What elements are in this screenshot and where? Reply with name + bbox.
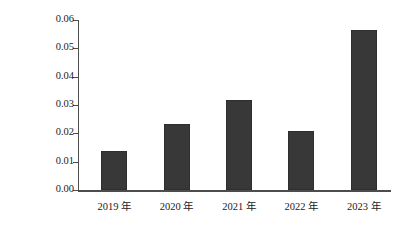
y-tick-label: 0.00 <box>56 183 74 194</box>
y-tick-label: 0.03 <box>56 98 74 109</box>
x-tick-label: 2023 年 <box>347 198 381 213</box>
y-axis-line <box>78 20 79 191</box>
x-tick-label: 2021 年 <box>222 198 256 213</box>
chart-figure: 总磷含量（mg/L） 0.000.010.020.030.040.050.06 … <box>0 0 415 228</box>
bar <box>101 151 127 190</box>
x-tick-label: 2019 年 <box>97 198 131 213</box>
y-tick-label: 0.04 <box>56 70 74 81</box>
bar <box>164 124 190 190</box>
y-tick-label: 0.05 <box>56 41 74 52</box>
x-tick-label: 2020 年 <box>160 198 194 213</box>
y-tick-label: 0.01 <box>56 155 74 166</box>
y-tick-label: 0.02 <box>56 126 74 137</box>
x-axis-line <box>78 190 391 192</box>
plot-area: 0.000.010.020.030.040.050.06 2019 年2020 … <box>78 20 390 191</box>
x-tick-label: 2022 年 <box>285 198 319 213</box>
bar <box>288 131 314 190</box>
bar <box>226 100 252 190</box>
bar <box>351 30 377 190</box>
y-tick-label: 0.06 <box>56 13 74 24</box>
